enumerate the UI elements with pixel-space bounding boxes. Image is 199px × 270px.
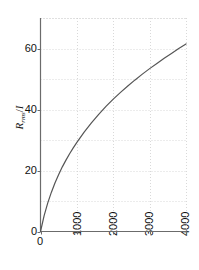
grid-lines [41, 18, 187, 232]
chart-figure: Rrms/I 60 40 20 0 0 1000 2000 3000 4000 [0, 0, 199, 270]
axis-ticks [38, 50, 187, 235]
plot-area [0, 0, 199, 270]
